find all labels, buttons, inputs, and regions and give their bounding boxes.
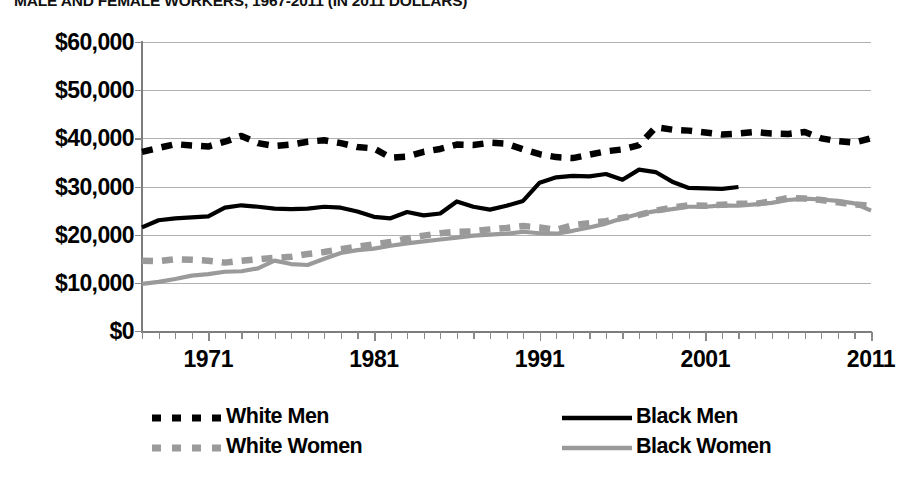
x-axis-labels: 19711981199120012011 (142, 348, 882, 382)
x-axis-tick (772, 332, 773, 339)
y-axis-tick-label: $10,000 (8, 271, 134, 294)
x-axis-tick-label: 1981 (349, 348, 399, 371)
x-axis-tick (142, 332, 143, 339)
x-axis-tick (407, 332, 408, 339)
legend-item[interactable]: Black Men (560, 404, 738, 430)
x-axis-tick (556, 332, 557, 339)
series-line (142, 127, 871, 158)
x-axis-tick (854, 332, 855, 339)
series-lines (142, 42, 871, 331)
y-axis-tick (135, 42, 142, 43)
legend-swatch-icon (150, 409, 224, 425)
x-axis-tick (457, 332, 458, 339)
x-axis-tick (622, 332, 623, 339)
x-axis-tick (357, 332, 358, 339)
x-axis-tick (871, 332, 873, 341)
legend-swatch-icon (560, 409, 634, 425)
x-axis-tick (589, 332, 590, 339)
x-axis-tick (705, 332, 707, 341)
x-axis-tick-label: 2001 (681, 348, 731, 371)
x-axis-tick (275, 332, 276, 339)
chart-root: MALE AND FEMALE WORKERS, 1967-2011 (IN 2… (0, 0, 917, 480)
x-axis-tick (656, 332, 657, 339)
x-axis-tick (308, 332, 309, 339)
x-axis-tick-label: 1971 (183, 348, 233, 371)
x-axis-tick-label: 1991 (515, 348, 565, 371)
x-axis-tick (424, 332, 425, 339)
x-axis-tick (175, 332, 176, 339)
chart-legend: White MenWhite WomenBlack MenBlack Women (0, 400, 917, 470)
legend-label: White Men (226, 406, 329, 428)
x-axis-tick (838, 332, 839, 339)
x-axis-tick (738, 332, 739, 339)
y-axis-tick (135, 235, 142, 236)
y-axis-labels: $60,000$50,000$40,000$30,000$20,000$10,0… (0, 42, 134, 331)
x-axis-tick (672, 332, 673, 339)
legend-label: White Women (226, 436, 362, 458)
x-axis-tick (374, 332, 376, 341)
x-axis-tick (755, 332, 756, 339)
y-axis-tick-label: $60,000 (8, 31, 134, 54)
y-axis-tick-label: $20,000 (8, 223, 134, 246)
x-axis-tick (324, 332, 325, 339)
y-axis-tick (135, 187, 142, 188)
x-axis-tick (473, 332, 474, 339)
y-axis-tick (135, 138, 142, 139)
y-axis-tick (135, 283, 142, 284)
x-axis-tick (523, 332, 524, 339)
x-axis-tick (291, 332, 292, 339)
x-axis-tick (192, 332, 193, 339)
y-axis-tick-label: $30,000 (8, 175, 134, 198)
legend-label: Black Women (636, 436, 771, 458)
x-axis-tick-label: 2011 (847, 348, 895, 371)
x-axis-tick (606, 332, 607, 339)
x-axis-tick (821, 332, 822, 339)
x-axis-tick (805, 332, 806, 339)
x-axis-tick (540, 332, 542, 341)
x-axis-tick (490, 332, 491, 339)
x-axis-tick (225, 332, 226, 339)
legend-swatch-icon (560, 439, 634, 455)
y-axis-tick-label: $50,000 (8, 79, 134, 102)
x-axis-tick (241, 332, 242, 339)
legend-swatch-icon (150, 439, 224, 455)
legend-label: Black Men (636, 406, 738, 428)
y-axis-tick (135, 331, 142, 332)
x-axis-tick (639, 332, 640, 339)
legend-item[interactable]: White Men (150, 404, 329, 430)
chart-title: MALE AND FEMALE WORKERS, 1967-2011 (IN 2… (14, 0, 904, 11)
x-axis-tick (341, 332, 342, 339)
x-axis-tick (573, 332, 574, 339)
x-axis-tick (440, 332, 441, 339)
legend-item[interactable]: Black Women (560, 434, 771, 460)
series-line (142, 170, 738, 228)
series-line (142, 199, 871, 284)
x-axis-tick (258, 332, 259, 339)
x-axis-tick (788, 332, 789, 339)
x-axis-tick (507, 332, 508, 339)
legend-item[interactable]: White Women (150, 434, 362, 460)
x-axis-tick (208, 332, 210, 341)
x-axis-tick (159, 332, 160, 339)
x-axis-tick (391, 332, 392, 339)
y-axis-tick-label: $40,000 (8, 127, 134, 150)
x-axis-tick (722, 332, 723, 339)
y-axis-tick-label: $0 (8, 320, 134, 343)
x-axis-tick (689, 332, 690, 339)
y-axis-tick (135, 90, 142, 91)
plot-area (142, 42, 871, 331)
